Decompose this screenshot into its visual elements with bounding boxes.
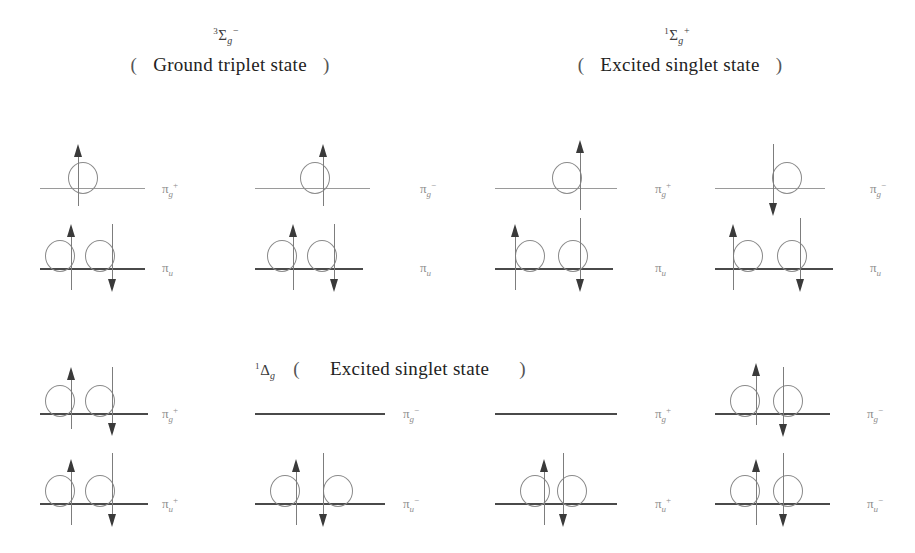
- pi-subscript: g: [410, 414, 415, 424]
- pi-symbol: π: [867, 406, 874, 421]
- spin-arrow-up: [727, 224, 739, 290]
- spin-arrow-up: [65, 367, 77, 429]
- pi-subscript: u: [410, 504, 415, 514]
- close-paren: ): [323, 54, 330, 75]
- orbital-panel-2: πg− πu: [255, 140, 445, 315]
- orbital-label-antibonding: πg+: [162, 180, 178, 199]
- level-bonding-1: [40, 218, 230, 308]
- term-superscript: −: [233, 25, 239, 36]
- pi-symbol: π: [655, 260, 662, 275]
- pi-subscript: u: [877, 268, 882, 278]
- spin-arrow-down: [777, 453, 789, 527]
- orbital-label-bonding: πu+: [655, 495, 671, 514]
- spin-arrow-up: [750, 363, 762, 425]
- pi-symbol: π: [162, 406, 169, 421]
- state-name-row-ground-triplet: (Ground triplet state): [20, 54, 440, 76]
- energy-level-line: [715, 413, 830, 415]
- orbital-panel-8: πg− πu−: [715, 375, 910, 550]
- pi-superscript: +: [173, 180, 178, 190]
- orbital-label-bonding: πu: [655, 260, 666, 278]
- energy-level-line: [715, 503, 830, 505]
- orbital-panel-7: πg+ πu+: [495, 375, 685, 550]
- spin-arrow-down: [767, 144, 779, 220]
- pi-subscript: g: [169, 189, 174, 199]
- spin-arrow-down: [328, 224, 340, 292]
- orbital-panel-3: πg+ πu: [495, 140, 685, 315]
- pi-superscript: −: [881, 180, 886, 190]
- mo-diagram-figure: 3Σg− (Ground triplet state) 1Σg+ (Excite…: [0, 0, 915, 553]
- pi-symbol: π: [870, 181, 877, 196]
- orbital-label-antibonding: πg+: [655, 180, 671, 199]
- orbital-label-bonding: πu: [870, 260, 881, 278]
- open-paren: (: [130, 54, 137, 75]
- state-name-label: Excited singlet state: [600, 54, 759, 75]
- header-ground-triplet: 3Σg− (Ground triplet state): [20, 26, 440, 76]
- term-subscript: g: [678, 35, 683, 46]
- pi-symbol: π: [162, 181, 169, 196]
- pi-subscript: u: [427, 268, 432, 278]
- state-name-row-excited-singlet-sigma: (Excited singlet state): [460, 54, 900, 76]
- spin-arrow-down: [106, 453, 118, 527]
- level-bonding-2: [255, 218, 445, 308]
- term-symbol-excited-singlet-sigma: 1Σg+: [454, 26, 900, 46]
- pi-superscript: +: [666, 180, 671, 190]
- pi-symbol: π: [420, 260, 427, 275]
- spin-arrow-up: [509, 224, 521, 290]
- pi-subscript: g: [874, 414, 879, 424]
- orbital-panel-6: πg− πu−: [255, 375, 445, 550]
- pi-subscript: u: [874, 504, 879, 514]
- level-antibonding-4: [715, 140, 910, 210]
- spin-arrow-up: [287, 224, 299, 290]
- open-paren: (: [578, 54, 585, 75]
- level-antibonding-5: [40, 375, 230, 445]
- term-subscript: g: [227, 35, 232, 46]
- pi-symbol: π: [162, 496, 169, 511]
- pi-symbol: π: [655, 181, 662, 196]
- orbital-label-bonding: πu: [162, 260, 173, 278]
- spin-arrow-up: [574, 140, 586, 210]
- pi-subscript: g: [662, 414, 667, 424]
- orbital-label-antibonding: πg+: [655, 405, 671, 424]
- pi-superscript: +: [666, 495, 671, 505]
- term-pre-superscript: 1: [255, 361, 260, 371]
- orbital-label-antibonding: πg−: [867, 405, 883, 424]
- orbital-panel-1: πg+ πu: [40, 140, 230, 315]
- orbital-label-antibonding: πg+: [162, 405, 178, 424]
- pi-subscript: g: [427, 189, 432, 199]
- level-antibonding-2: [255, 140, 445, 210]
- energy-level-line: [495, 503, 617, 505]
- orbital-label-antibonding: πg−: [870, 180, 886, 199]
- spin-arrow-up: [750, 459, 762, 525]
- energy-level-line: [255, 413, 385, 415]
- pi-subscript: u: [662, 504, 667, 514]
- spin-arrow-down: [557, 453, 569, 527]
- orbital-label-antibonding: πg−: [420, 180, 436, 199]
- pi-superscript: +: [666, 405, 671, 415]
- pi-subscript: g: [877, 189, 882, 199]
- pi-symbol: π: [655, 406, 662, 421]
- pi-symbol: π: [162, 260, 169, 275]
- spin-arrow-up: [65, 224, 77, 290]
- pi-superscript: −: [878, 495, 883, 505]
- orbital-label-bonding: πu+: [162, 495, 178, 514]
- close-paren: ): [776, 54, 783, 75]
- term-symbol-ground-triplet: 3Σg−: [12, 26, 440, 46]
- spin-arrow-down: [574, 218, 586, 292]
- pi-subscript: g: [662, 189, 667, 199]
- pi-subscript: g: [169, 414, 174, 424]
- pi-subscript: u: [169, 268, 174, 278]
- term-letter: Σ: [218, 27, 227, 43]
- term-superscript: +: [684, 25, 690, 36]
- spin-arrow-down: [777, 367, 789, 439]
- orbital-label-bonding: πu−: [867, 495, 883, 514]
- term-letter: Σ: [669, 27, 678, 43]
- pi-symbol: π: [867, 496, 874, 511]
- level-bonding-5: [40, 453, 230, 543]
- pi-subscript: u: [662, 268, 667, 278]
- state-name-label: Ground triplet state: [153, 54, 307, 75]
- spin-arrow-up: [290, 459, 302, 525]
- pi-superscript: +: [173, 495, 178, 505]
- pi-superscript: −: [878, 405, 883, 415]
- orbital-label-bonding: πu: [420, 260, 431, 278]
- header-excited-singlet-sigma: 1Σg+ (Excited singlet state): [460, 26, 900, 76]
